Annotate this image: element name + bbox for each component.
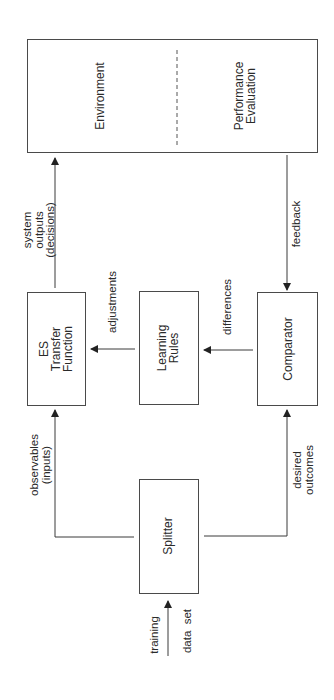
environment-label: Environment — [94, 62, 106, 129]
learning-rules-label: Learning Rules — [156, 325, 180, 372]
observables-label: observables (inputs) — [29, 434, 52, 496]
system-outputs-label: system outputs (decisions) — [22, 202, 57, 258]
feedback-label: feedback — [291, 201, 303, 248]
desired-outcomes-label: desired outcomes — [292, 445, 315, 495]
splitter-label: Splitter — [162, 517, 174, 554]
data-set-label: data set — [159, 609, 205, 653]
comparator-label: Comparator — [282, 317, 294, 380]
differences-label: differences — [222, 279, 234, 335]
es-transfer-function-label: ES Transfer Function — [38, 326, 74, 372]
adjustments-label: adjustments — [107, 271, 119, 333]
performance-evaluation-label: Performance Evaluation — [233, 62, 257, 131]
